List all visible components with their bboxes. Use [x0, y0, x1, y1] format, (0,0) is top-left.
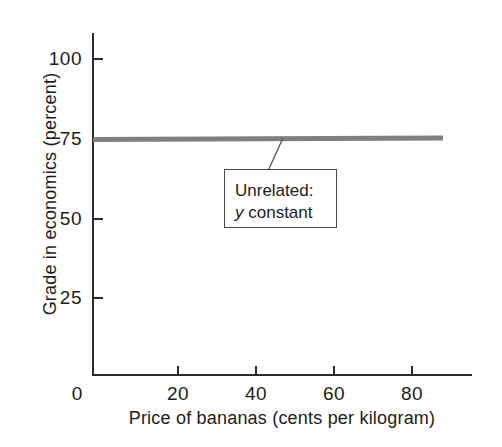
x-axis-label-40: 40 — [230, 384, 282, 403]
annotation-line-1: Unrelated: — [235, 182, 313, 199]
chart-canvas: 100 75 50 25 0 20 40 60 80 Grade in econ… — [0, 0, 502, 447]
annotation-callout-box: Unrelated: y constant — [224, 169, 337, 228]
annotation-line-2: y constant — [235, 204, 313, 221]
x-axis-tick-20 — [177, 366, 179, 375]
x-axis-title: Price of bananas (cents per kilogram) — [92, 409, 472, 427]
x-axis-line — [92, 374, 472, 376]
y-axis-tick-100 — [94, 58, 103, 60]
y-axis-title: Grade in economics (percent) — [41, 49, 59, 339]
x-axis-tick-80 — [411, 366, 413, 375]
x-axis-tick-40 — [255, 366, 257, 375]
annotation-line-2-rest: constant — [244, 203, 313, 222]
y-axis-line — [92, 33, 94, 376]
x-axis-label-60: 60 — [308, 384, 360, 403]
x-axis-label-20: 20 — [152, 384, 204, 403]
x-axis-label-80: 80 — [386, 384, 438, 403]
x-axis-tick-60 — [333, 366, 335, 375]
annotation-variable-y: y — [235, 203, 244, 222]
y-axis-tick-50 — [94, 218, 103, 220]
y-axis-tick-25 — [94, 297, 103, 299]
origin-label-0: 0 — [59, 384, 95, 403]
